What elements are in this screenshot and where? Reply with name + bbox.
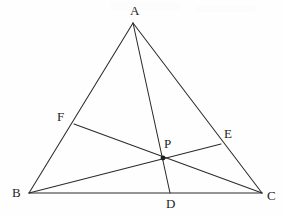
point-label-c: C — [267, 189, 276, 202]
point-marker-p — [161, 156, 166, 161]
point-label-b: B — [12, 186, 21, 199]
point-label-p: P — [164, 137, 171, 150]
point-label-e: E — [224, 127, 232, 140]
segment-cevian-be — [29, 144, 221, 193]
geometry-canvas — [0, 0, 282, 215]
point-label-f: F — [57, 110, 64, 123]
segment-side-ca — [133, 23, 262, 193]
point-label-d: D — [166, 197, 175, 210]
geometry-diagram: A B C D E F P — [0, 0, 282, 215]
segment-cevian-ad — [133, 23, 170, 193]
point-label-a: A — [130, 4, 139, 17]
segment-side-ab — [29, 23, 133, 193]
